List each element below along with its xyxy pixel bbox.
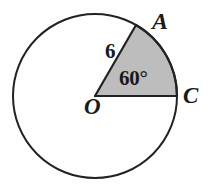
circle-sector-svg xyxy=(0,0,212,192)
point-label-a: A xyxy=(152,9,168,33)
point-label-c: C xyxy=(183,84,198,107)
point-label-o: O xyxy=(84,95,101,118)
radius-length-label: 6 xyxy=(105,41,116,62)
central-angle-label: 60° xyxy=(119,68,148,89)
geometry-figure: A C O 6 60° xyxy=(0,0,212,192)
